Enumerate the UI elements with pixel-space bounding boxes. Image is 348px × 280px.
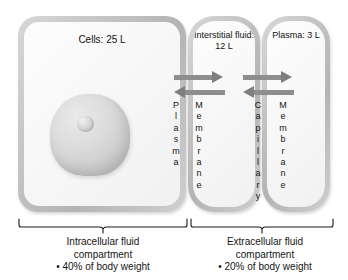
vertical-label-char: r: [251, 180, 265, 191]
plasma-title-line-1: Plasma:: [272, 30, 305, 40]
vertical-label-char: s: [169, 134, 183, 145]
vertical-label-char: m: [276, 123, 290, 134]
arrow-shaft: [254, 90, 294, 95]
caption-intracellular-line-2: compartment: [10, 249, 196, 262]
vertical-label-char: a: [192, 157, 206, 168]
arrow-head-left-icon: [243, 86, 254, 98]
arrow-shaft: [174, 75, 214, 80]
arrow-head-right-icon: [281, 71, 292, 83]
caption-extracellular-line-3: • 20% of body weight: [190, 261, 340, 274]
vertical-label-char: e: [192, 111, 206, 122]
vertical-label-char: l: [251, 157, 265, 168]
bracket-intracellular: [18, 218, 188, 234]
vertical-label-char: y: [251, 191, 265, 202]
bracket-extracellular: [190, 218, 334, 234]
caption-intracellular-line-3: • 40% of body weight: [10, 261, 196, 274]
vertical-label-plasma: Plasma: [169, 100, 183, 168]
caption-intracellular: Intracellular fluid compartment • 40% of…: [10, 236, 196, 274]
vertical-label-char: a: [169, 157, 183, 168]
fluid-compartments-diagram: muscleaddic Cells: 25 L Interstitial flu…: [0, 0, 348, 280]
caption-extracellular-line-1: Extracellular fluid: [190, 236, 340, 249]
caption-intracellular-line-1: Intracellular fluid: [10, 236, 196, 249]
vertical-label-char: e: [276, 111, 290, 122]
vertical-label-char: a: [276, 157, 290, 168]
vertical-label-char: e: [276, 180, 290, 191]
cells-compartment-box: Cells: 25 L: [18, 16, 186, 212]
caption-extracellular: Extracellular fluid compartment • 20% of…: [190, 236, 340, 274]
vertical-label-char: l: [169, 111, 183, 122]
vertical-label-char: l: [251, 146, 265, 157]
arrow-shaft: [243, 75, 283, 80]
arrow-shaft: [185, 90, 225, 95]
vertical-label-char: a: [251, 168, 265, 179]
vertical-label-membrane-middle: Membrane: [192, 100, 206, 191]
cell-nucleus-icon: [50, 94, 130, 176]
interstitial-title-line-1: Interstitial: [194, 30, 233, 40]
vertical-label-membrane-right: Membrane: [276, 100, 290, 191]
vertical-label-char: r: [276, 146, 290, 157]
vertical-label-char: m: [169, 146, 183, 157]
vertical-label-char: n: [276, 168, 290, 179]
vertical-label-char: P: [169, 100, 183, 111]
vertical-label-char: r: [192, 146, 206, 157]
cell-nucleolus-icon: [77, 116, 94, 132]
vertical-label-char: a: [251, 111, 265, 122]
arrow-head-left-icon: [174, 86, 185, 98]
plasma-compartment-box: Plasma: 3 L: [262, 16, 330, 212]
arrow-head-right-icon: [212, 71, 223, 83]
interstitial-fluid-title: Interstitial fluid: 12 L: [193, 30, 255, 52]
plasma-compartment-title: Plasma: 3 L: [267, 30, 325, 41]
vertical-label-char: b: [192, 134, 206, 145]
vertical-label-char: n: [192, 168, 206, 179]
caption-extracellular-line-2: compartment: [190, 249, 340, 262]
vertical-label-capillary: Capillary: [251, 100, 265, 203]
vertical-label-char: a: [169, 123, 183, 134]
vertical-label-char: p: [251, 123, 265, 134]
vertical-label-char: b: [276, 134, 290, 145]
plasma-title-line-2: 3 L: [307, 30, 320, 40]
vertical-label-char: M: [192, 100, 206, 111]
vertical-label-char: e: [192, 180, 206, 191]
cells-compartment-interior: Cells: 25 L: [24, 22, 180, 206]
cells-compartment-title: Cells: 25 L: [24, 34, 180, 46]
vertical-label-char: i: [251, 134, 265, 145]
vertical-label-char: M: [276, 100, 290, 111]
vertical-label-char: m: [192, 123, 206, 134]
vertical-label-char: C: [251, 100, 265, 111]
